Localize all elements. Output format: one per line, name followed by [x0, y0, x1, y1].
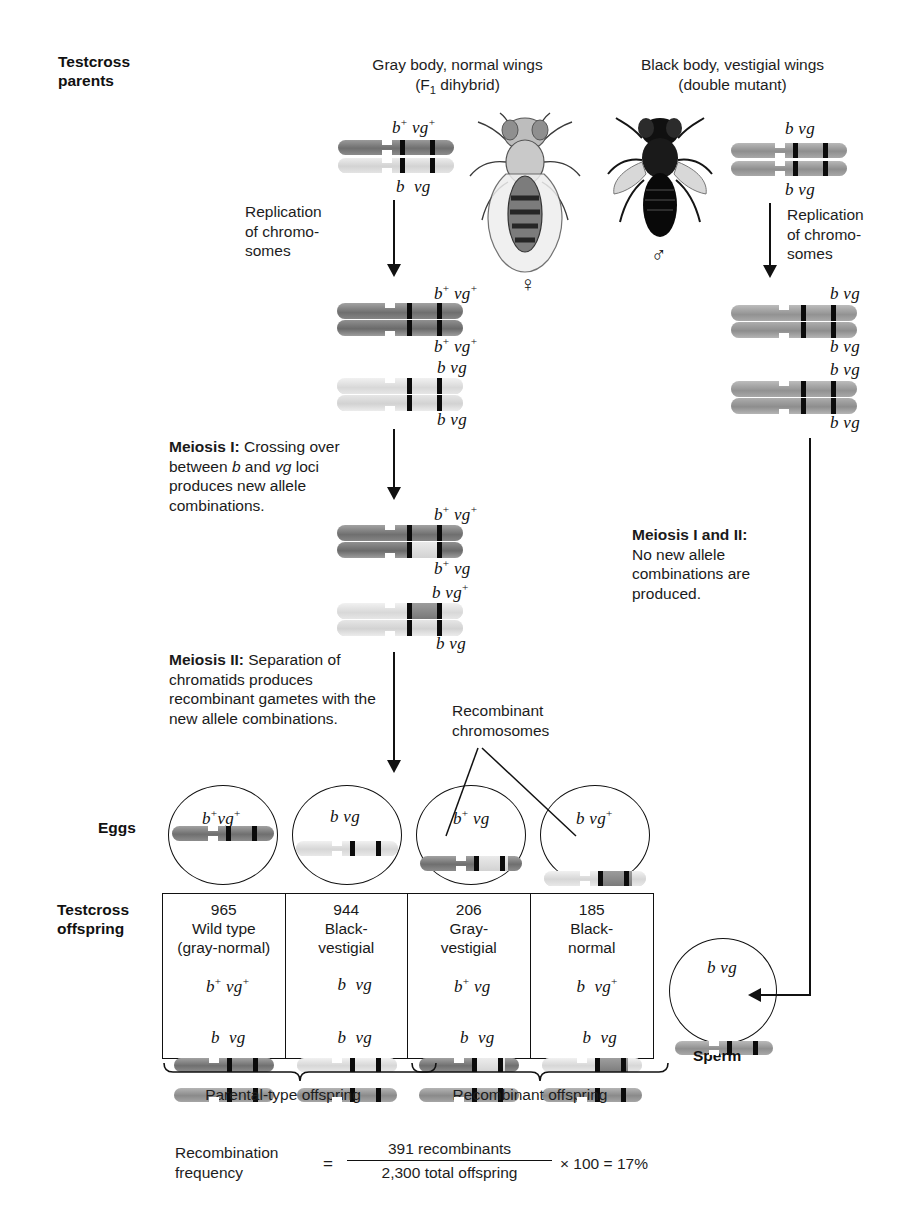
- male-chrom-bottom-label: b vg: [785, 180, 815, 200]
- offspring-cell-3: 206 Gray- vestigial b+ vg b vg: [408, 894, 531, 1058]
- offspring-3-count: 206: [408, 894, 530, 919]
- chromatid-mid-1a: [731, 305, 857, 321]
- offspring-label-l2: offspring: [57, 919, 177, 938]
- replicated-right-chromosome-2: [731, 381, 857, 414]
- male-title-line1: Black body, vestigial wings: [600, 55, 865, 75]
- meiosis-1-arrow-shaft: [393, 429, 395, 491]
- offspring-4-chromosome-top: [542, 1058, 642, 1072]
- offspring-1-chromosome-top: [174, 1058, 274, 1072]
- female-title-line2: (F1 dihybrid): [335, 75, 580, 101]
- egg-circle-2: [292, 785, 402, 885]
- replicated-chromosome-light: [337, 378, 463, 411]
- crossover-chromosome-light: [337, 603, 463, 636]
- replicated-right-2-bottom-label: b vg: [830, 413, 860, 433]
- offspring-2-bottom-label: b vg: [338, 1028, 373, 1048]
- formula-fraction-bar: [347, 1160, 552, 1162]
- meiosis-2-text: Meiosis II: Separation of chromatids pro…: [169, 650, 387, 728]
- sperm-path-vertical-line: [809, 438, 811, 996]
- egg-4-label: b vg+: [576, 807, 613, 829]
- egg-4-chromosome: [544, 871, 646, 886]
- female-chrom-top-label: b+ vg+: [392, 116, 435, 138]
- offspring-3-name2: vestigial: [408, 938, 530, 957]
- replicated-left-2-top-label: b vg: [437, 358, 467, 378]
- formula-denominator: 2,300 total offspring: [347, 1163, 552, 1183]
- male-title-line2: (double mutant): [600, 75, 865, 95]
- female-fly-illustration: [460, 110, 590, 280]
- replication-right-l2: of chromo-: [787, 225, 902, 245]
- offspring-4-name2: normal: [531, 938, 654, 957]
- row-label-testcross-offspring: Testcross offspring: [57, 900, 177, 938]
- chromatid-xo-light-top: [337, 603, 463, 619]
- offspring-cell-4: 185 Black- normal b vg+ b vg: [531, 894, 654, 1058]
- offspring-1-count: 965: [163, 894, 285, 919]
- row-label-eggs: Eggs: [98, 818, 136, 837]
- recombinant-callout-text: Recombinant chromosomes: [452, 701, 622, 740]
- crossover-chromosome-dark: [337, 525, 463, 558]
- offspring-3-name1: Gray-: [408, 919, 530, 938]
- offspring-3-chromosome-top: [419, 1058, 519, 1072]
- row-label-line1: Testcross: [58, 52, 188, 71]
- replicated-left-2-bottom-label: b vg: [437, 410, 467, 430]
- formula-label: Recombination frequency: [175, 1143, 320, 1183]
- egg-2-chromosome: [296, 841, 398, 856]
- replication-right-l1: Replication: [787, 205, 902, 225]
- offspring-1-name2: (gray-normal): [163, 938, 285, 957]
- female-parent-chromosome-pair: [338, 140, 454, 173]
- chromosome-light: [338, 158, 454, 173]
- replicated-right-chromosome-1: [731, 305, 857, 338]
- offspring-cell-2: 944 Black- vestigial b vg b vg: [286, 894, 409, 1058]
- chromosome-mid-1: [731, 143, 847, 158]
- formula-label-l2: frequency: [175, 1163, 320, 1183]
- replicated-left-1-top-label: b+ vg+: [434, 282, 477, 304]
- meiosis-right-text: Meiosis I and II: No new allele combinat…: [632, 525, 817, 603]
- chromatid-light-2: [337, 395, 463, 411]
- meiosis-1-text: Meiosis I: Crossing over between b and v…: [169, 437, 384, 515]
- female-parent-title: Gray body, normal wings (F1 dihybrid): [335, 55, 580, 100]
- replication-left-l3: somes: [245, 241, 355, 261]
- recombinant-callout-l1: Recombinant: [452, 701, 622, 721]
- offspring-4-top-label: b vg+: [577, 975, 618, 997]
- replication-left-arrow-head: [387, 264, 401, 277]
- offspring-4-bottom-label: b vg: [583, 1028, 618, 1048]
- meiosis-1-arrow-head: [387, 487, 401, 500]
- offspring-2-name2: vestigial: [286, 938, 408, 957]
- replicated-right-1-top-label: b vg: [830, 284, 860, 304]
- chromosome-mid-2: [731, 161, 847, 176]
- chromatid-xo-dark-bottom: [337, 542, 463, 558]
- row-label-testcross-parents: Testcross parents: [58, 52, 188, 90]
- offspring-cell-1: 965 Wild type (gray-normal) b+ vg+ b vg: [163, 894, 286, 1058]
- offspring-1-bottom-label: b vg: [211, 1028, 246, 1048]
- offspring-2-count: 944: [286, 894, 408, 919]
- meiosis-2-arrow-shaft: [393, 652, 395, 764]
- offspring-3-bottom-label: b vg: [460, 1028, 495, 1048]
- female-chrom-bottom-label: b vg: [396, 177, 431, 197]
- offspring-1-top-label: b+ vg+: [206, 975, 249, 997]
- replication-right-arrow-head: [763, 265, 777, 278]
- male-chrom-top-label: b vg: [785, 119, 815, 139]
- egg-3-label: b+ vg: [453, 807, 490, 829]
- replicated-right-2-top-label: b vg: [830, 360, 860, 380]
- formula-tail: × 100 = 17%: [560, 1154, 648, 1174]
- brace-label-parental: Parental-type offspring: [155, 1085, 411, 1105]
- chromatid-mid-2a: [731, 381, 857, 397]
- crossover-1-bottom-label: b+ vg: [434, 557, 471, 579]
- sperm-label-allele: b vg: [707, 958, 737, 978]
- figure-canvas: Testcross parents Gray body, normal wing…: [0, 0, 911, 1227]
- formula-times: × 100 =: [560, 1155, 613, 1172]
- meiosis-2-arrow-head: [387, 760, 401, 773]
- egg-2-label: b vg: [330, 807, 360, 827]
- offspring-table: 965 Wild type (gray-normal) b+ vg+ b vg …: [162, 893, 654, 1059]
- replication-right-arrow-shaft: [769, 203, 771, 269]
- replication-left-l1: Replication: [245, 202, 355, 222]
- formula-numerator: 391 recombinants: [347, 1139, 552, 1159]
- crossover-1-top-label: b+ vg+: [434, 503, 477, 525]
- meiosis-2-bold: Meiosis II:: [169, 651, 244, 668]
- offspring-1-name1: Wild type: [163, 919, 285, 938]
- formula-fraction: 391 recombinants 2,300 total offspring: [347, 1139, 552, 1183]
- replication-left-l2: of chromo-: [245, 222, 355, 242]
- formula-result: 17%: [617, 1155, 648, 1172]
- offspring-2-top-label: b vg: [338, 975, 373, 995]
- chromatid-mid-2b: [731, 398, 857, 414]
- offspring-2-chromosome-top: [297, 1058, 397, 1072]
- replicated-chromosome-dark: [337, 303, 463, 336]
